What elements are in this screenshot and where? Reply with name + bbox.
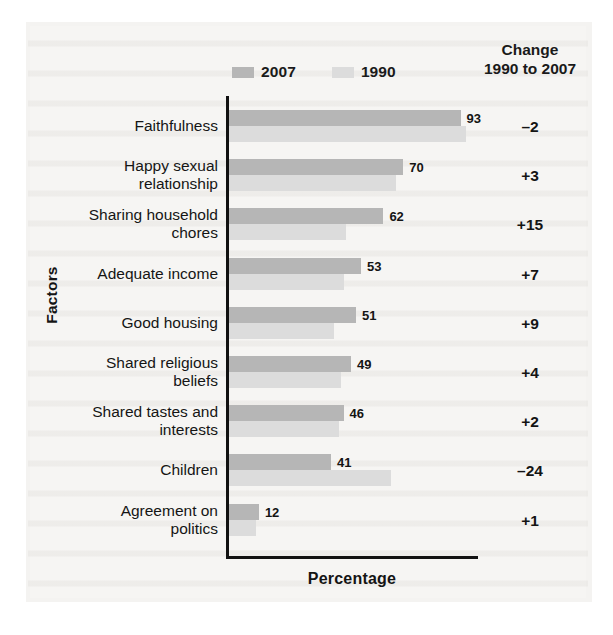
chart-row: Happy sexualrelationship70+3 (0, 159, 613, 208)
bar-value-label: 41 (337, 455, 351, 470)
row-label: Agreement onpolitics (18, 502, 218, 538)
change-value: +15 (466, 216, 594, 234)
row-label: Adequate income (18, 265, 218, 283)
chart-row: Good housing51+9 (0, 307, 613, 356)
chart-row: Shared religiousbeliefs49+4 (0, 356, 613, 405)
row-label-line1: Children (18, 461, 218, 479)
change-value: –24 (466, 462, 594, 480)
bar-1990[interactable] (229, 470, 391, 486)
change-value: +3 (466, 167, 594, 185)
row-label-line1: Shared religious (18, 354, 218, 372)
bar-value-label: 46 (350, 406, 364, 421)
bar-value-label: 51 (362, 308, 376, 323)
row-label: Shared religiousbeliefs (18, 354, 218, 390)
row-label-line1: Faithfulness (18, 117, 218, 135)
change-column-header: Change 1990 to 2007 (466, 40, 594, 78)
row-label-line1: Happy sexual (18, 157, 218, 175)
row-label-line1: Good housing (18, 314, 218, 332)
change-value: +4 (466, 364, 594, 382)
bar-2007[interactable] (229, 258, 361, 274)
bar-1990[interactable] (229, 421, 339, 437)
bar-2007[interactable] (229, 110, 461, 126)
change-header-line2: 1990 to 2007 (466, 59, 594, 78)
bar-1990[interactable] (229, 372, 341, 388)
legend-swatch-1990-icon (332, 67, 354, 78)
bar-2007[interactable] (229, 504, 259, 520)
bar-2007[interactable] (229, 454, 331, 470)
bar-2007[interactable] (229, 159, 403, 175)
bar-2007[interactable] (229, 208, 383, 224)
bar-1990[interactable] (229, 126, 466, 142)
row-label-line2: chores (18, 224, 218, 242)
row-label: Faithfulness (18, 117, 218, 135)
bar-1990[interactable] (229, 224, 346, 240)
bar-2007[interactable] (229, 405, 344, 421)
legend-item-1990: 1990 (332, 63, 396, 81)
change-value: +2 (466, 413, 594, 431)
chart-row: Agreement onpolitics12+1 (0, 504, 613, 553)
chart-row: Shared tastes andinterests46+2 (0, 405, 613, 454)
chart-legend: 2007 1990 (232, 63, 396, 81)
change-value: +9 (466, 315, 594, 333)
row-label-line1: Sharing household (18, 206, 218, 224)
bar-1990[interactable] (229, 323, 334, 339)
row-label-line1: Adequate income (18, 265, 218, 283)
bar-value-label: 62 (389, 209, 403, 224)
row-label: Shared tastes andinterests (18, 403, 218, 439)
change-value: –2 (466, 118, 594, 136)
x-axis-title: Percentage (226, 570, 478, 588)
row-label-line1: Agreement on (18, 502, 218, 520)
chart-row: Children41–24 (0, 454, 613, 503)
row-label: Good housing (18, 314, 218, 332)
bar-1990[interactable] (229, 520, 256, 536)
bar-chart-figure: 2007 1990 Change 1990 to 2007 Factors Pe… (0, 0, 613, 635)
change-value: +1 (466, 512, 594, 530)
bar-value-label: 49 (357, 357, 371, 372)
bar-1990[interactable] (229, 274, 344, 290)
bar-2007[interactable] (229, 356, 351, 372)
chart-row: Faithfulness93–2 (0, 110, 613, 159)
bar-2007[interactable] (229, 307, 356, 323)
row-label: Children (18, 461, 218, 479)
row-label: Happy sexualrelationship (18, 157, 218, 193)
scanned-page: 2007 1990 Change 1990 to 2007 Factors Pe… (0, 0, 613, 635)
row-label-line1: Shared tastes and (18, 403, 218, 421)
change-header-line1: Change (466, 40, 594, 59)
bar-1990[interactable] (229, 175, 396, 191)
legend-label-1990: 1990 (361, 63, 396, 81)
bar-value-label: 53 (367, 259, 381, 274)
legend-label-2007: 2007 (261, 63, 296, 81)
legend-swatch-2007-icon (232, 67, 254, 78)
row-label-line2: politics (18, 520, 218, 538)
row-label-line2: beliefs (18, 372, 218, 390)
row-label-line2: interests (18, 421, 218, 439)
bar-value-label: 70 (409, 160, 423, 175)
chart-row: Adequate income53+7 (0, 258, 613, 307)
row-label: Sharing householdchores (18, 206, 218, 242)
change-value: +7 (466, 266, 594, 284)
row-label-line2: relationship (18, 175, 218, 193)
chart-row: Sharing householdchores62+15 (0, 208, 613, 257)
legend-item-2007: 2007 (232, 63, 296, 81)
x-axis-line (226, 556, 478, 559)
bar-value-label: 12 (265, 505, 279, 520)
